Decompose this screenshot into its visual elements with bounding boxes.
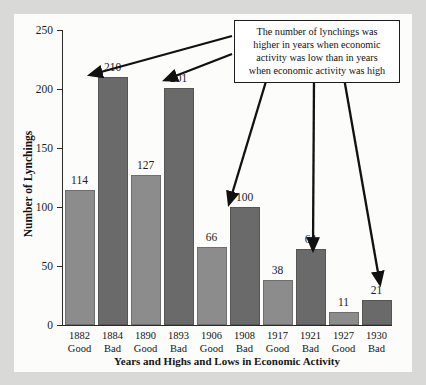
x-condition: Good	[200, 343, 223, 356]
x-condition: Bad	[102, 343, 123, 356]
x-category-1890: 1890Good	[134, 330, 157, 356]
bar-1890[interactable]	[131, 175, 161, 325]
y-axis-line	[62, 30, 63, 326]
x-year: 1917	[266, 330, 289, 343]
bar-value-label: 21	[371, 284, 383, 296]
y-tick-label: 250	[36, 24, 53, 36]
bar-value-label: 210	[104, 61, 121, 73]
x-condition: Good	[134, 343, 157, 356]
x-condition: Bad	[300, 343, 321, 356]
x-year: 1893	[168, 330, 189, 343]
x-category-1917: 1917Good	[266, 330, 289, 356]
x-category-1927: 1927Good	[332, 330, 355, 356]
x-year: 1890	[134, 330, 157, 343]
x-condition: Bad	[234, 343, 255, 356]
x-axis-title: Years and Highs and Lows in Economic Act…	[62, 355, 392, 367]
callout-line-4: when economic activity was high	[240, 64, 394, 77]
y-tick-label: 50	[42, 260, 54, 272]
bar-value-label: 64	[305, 233, 317, 245]
callout-line-2: higher in years when economic	[240, 38, 394, 51]
bar-value-label: 127	[137, 159, 154, 171]
callout-annotation: The number of lynchings was higher in ye…	[234, 20, 400, 83]
x-year: 1908	[234, 330, 255, 343]
x-condition: Good	[68, 343, 91, 356]
x-condition: Bad	[366, 343, 387, 356]
x-year: 1882	[68, 330, 91, 343]
bar-value-label: 100	[236, 191, 253, 203]
x-condition: Good	[266, 343, 289, 356]
bar-1882[interactable]	[65, 190, 95, 325]
bar-1917[interactable]	[263, 280, 293, 325]
bar-1906[interactable]	[197, 247, 227, 325]
y-tick-label: 100	[36, 201, 53, 213]
bar-1930[interactable]	[362, 300, 392, 325]
bar-value-label: 201	[170, 72, 187, 84]
y-tick-label: 0	[47, 319, 53, 331]
y-tick-mark	[57, 148, 62, 149]
bar-1893[interactable]	[164, 88, 194, 325]
callout-line-3: activity was low than in years	[240, 51, 394, 64]
x-year: 1927	[332, 330, 355, 343]
x-condition: Good	[332, 343, 355, 356]
x-category-1884: 1884Bad	[102, 330, 123, 356]
x-year: 1930	[366, 330, 387, 343]
y-tick-mark	[57, 325, 62, 326]
x-category-1921: 1921Bad	[300, 330, 321, 356]
y-tick-mark	[57, 207, 62, 208]
x-category-1930: 1930Bad	[366, 330, 387, 356]
y-tick-label: 200	[36, 83, 53, 95]
x-condition: Bad	[168, 343, 189, 356]
y-tick-mark	[57, 89, 62, 90]
bar-value-label: 11	[338, 296, 349, 308]
bar-1908[interactable]	[230, 207, 260, 325]
bar-1921[interactable]	[296, 249, 326, 325]
y-tick-label: 150	[36, 142, 53, 154]
callout-line-1: The number of lynchings was	[240, 25, 394, 38]
bar-value-label: 66	[206, 231, 218, 243]
x-year: 1921	[300, 330, 321, 343]
bar-1927[interactable]	[329, 312, 359, 325]
bar-value-label: 114	[71, 174, 88, 186]
y-axis-title: Number of Lynchings	[22, 131, 34, 238]
x-axis-line	[62, 325, 392, 326]
bar-value-label: 38	[272, 264, 284, 276]
x-category-1908: 1908Bad	[234, 330, 255, 356]
y-tick-mark	[57, 266, 62, 267]
x-category-1906: 1906Good	[200, 330, 223, 356]
x-year: 1906	[200, 330, 223, 343]
x-category-1882: 1882Good	[68, 330, 91, 356]
chart-figure: Number of Lynchings 0 50 100 150 200 250…	[14, 14, 412, 372]
x-year: 1884	[102, 330, 123, 343]
bar-1884[interactable]	[98, 77, 128, 325]
x-category-1893: 1893Bad	[168, 330, 189, 356]
y-tick-mark	[57, 30, 62, 31]
